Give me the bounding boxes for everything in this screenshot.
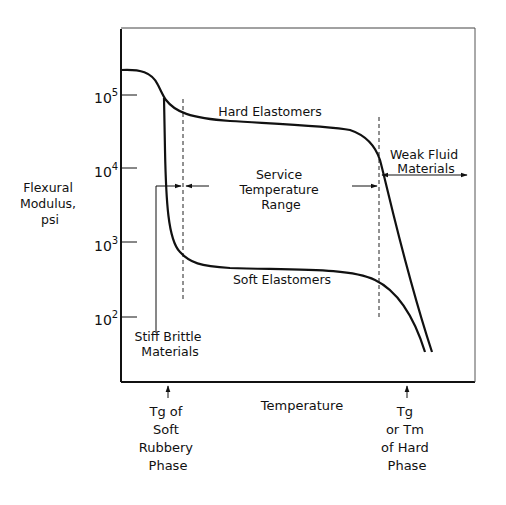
tg-hard-label-line: or Tm [386, 422, 424, 437]
hard-elastomers-label: Hard Elastomers [218, 104, 322, 119]
tg-soft-label-line: Soft [153, 422, 179, 437]
service-label-line: Range [261, 197, 301, 212]
tick-base: 10 [94, 90, 112, 106]
tg-tm-hard-phase-label: Tg or Tm of Hard Phase [381, 404, 433, 473]
tick-label-1e3: 103 [94, 235, 118, 254]
weak-fluid-materials-label: Weak Fluid Materials [390, 147, 462, 176]
tick-exp: 2 [112, 309, 118, 320]
tick-exp: 4 [112, 161, 118, 172]
tg-soft-rubbery-phase-label: Tg of Soft Rubbery Phase [139, 404, 197, 473]
tick-label-1e2: 102 [94, 309, 118, 328]
y-axis-label-line: Flexural [23, 180, 73, 195]
tick-base: 10 [94, 164, 112, 180]
service-label-line: Service [256, 167, 303, 182]
y-axis-label: Flexural Modulus, psi [20, 180, 80, 227]
tick-label-1e4: 104 [94, 161, 118, 180]
soft-elastomers-curve [164, 98, 425, 352]
service-temperature-range-label: Service Temperature Range [238, 167, 322, 212]
tg-hard-label-line: of Hard [381, 440, 429, 455]
tick-base: 10 [94, 238, 112, 254]
stiff-brittle-label-line: Materials [141, 344, 198, 359]
y-ticks: 105 104 103 102 [94, 87, 137, 328]
tg-hard-label-line: Tg [396, 404, 413, 419]
tg-soft-label-line: Phase [149, 458, 188, 473]
soft-elastomers-label: Soft Elastomers [233, 272, 331, 287]
service-label-line: Temperature [238, 182, 318, 197]
x-axis-label: Temperature [260, 398, 343, 413]
chart-canvas: 105 104 103 102 Flexural Modulus, psi Ha… [0, 0, 506, 505]
stiff-brittle-label-line: Stiff Brittle [134, 329, 201, 344]
stiff-brittle-materials-label: Stiff Brittle Materials [134, 329, 205, 359]
weak-fluid-label-line: Weak Fluid [390, 147, 458, 162]
y-axis-label-line: Modulus, [20, 196, 76, 211]
weak-fluid-label-line: Materials [397, 161, 454, 176]
tg-hard-label-line: Phase [388, 458, 427, 473]
y-axis-label-line: psi [41, 212, 59, 227]
stiff-brittle-leader-line [156, 186, 158, 333]
tick-exp: 5 [112, 87, 118, 98]
tg-soft-label-line: Rubbery [139, 440, 194, 455]
tg-soft-label-line: Tg of [149, 404, 183, 419]
tick-label-1e5: 105 [94, 87, 118, 106]
tick-exp: 3 [112, 235, 118, 246]
tick-base: 10 [94, 312, 112, 328]
